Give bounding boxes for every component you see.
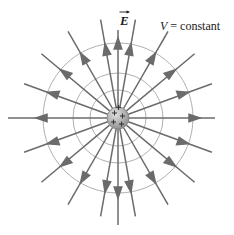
positive-point-charge	[107, 105, 129, 129]
electric-field-label: E	[120, 14, 129, 27]
field-line-300	[124, 128, 169, 205]
equipotential-label: V = constant	[160, 20, 220, 32]
field-line-vertical-up	[114, 30, 122, 107]
vector-arrow-icon	[119, 9, 130, 14]
field-line-0	[129, 114, 215, 122]
field-line-60	[124, 31, 169, 108]
electric-field-label-text: E	[120, 13, 129, 28]
electric-field-diagram	[0, 0, 234, 235]
field-line-240	[68, 128, 113, 205]
equipotential-label-value: = constant	[167, 19, 220, 33]
field-line-120	[68, 31, 113, 108]
field-line-180	[8, 114, 107, 122]
physics-diagram-figure: E V = constant	[0, 0, 234, 235]
field-line-vertical-down	[114, 129, 122, 225]
